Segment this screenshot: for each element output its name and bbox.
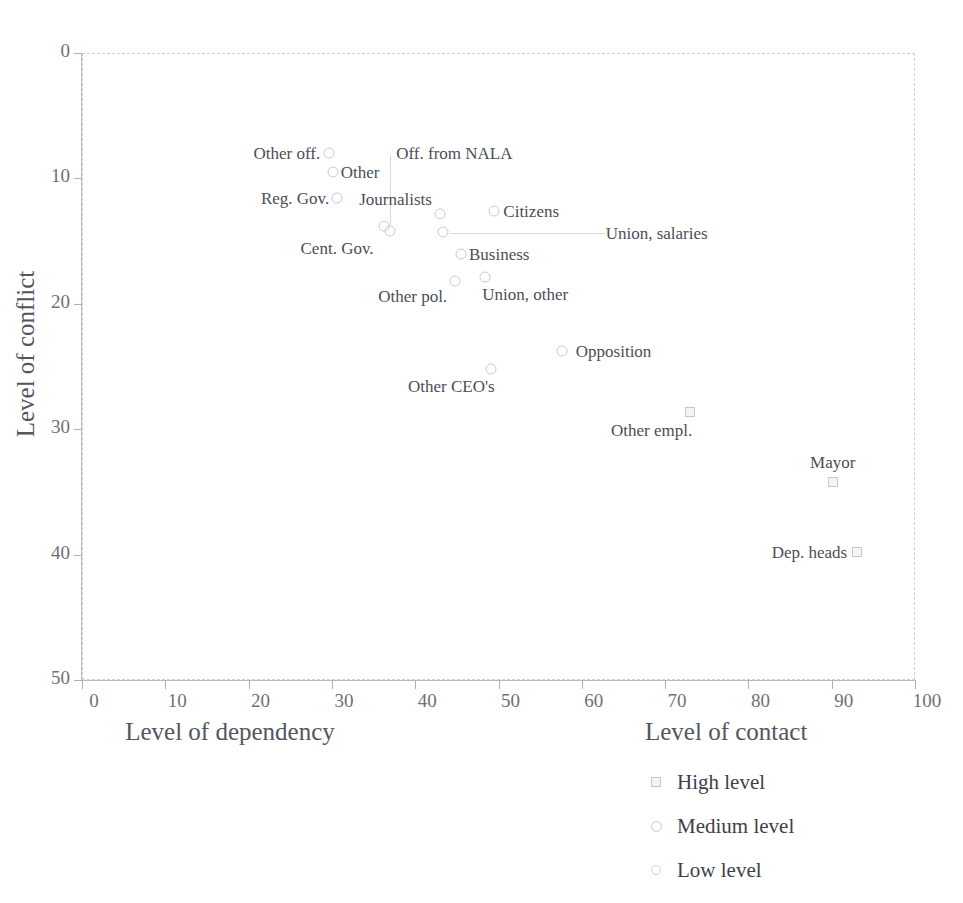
data-point[interactable] <box>450 276 461 287</box>
x-tick <box>665 680 666 689</box>
circle-marker-icon <box>480 272 491 283</box>
data-point-label: Other pol. <box>378 288 447 305</box>
circle-marker-icon <box>327 167 338 178</box>
y-tick <box>74 680 82 681</box>
data-point-label: Union, salaries <box>606 225 708 242</box>
x-tick-label: 30 <box>334 690 353 712</box>
scatter-chart: 50403020100 0102030405060708090100 Level… <box>0 0 963 903</box>
data-point-label: Cent. Gov. <box>301 240 374 257</box>
data-point-label: Union, other <box>482 286 568 303</box>
y-tick <box>74 429 82 430</box>
data-point[interactable] <box>480 272 491 283</box>
data-point[interactable] <box>435 208 446 219</box>
data-point-label: Other off. <box>254 145 321 162</box>
data-point[interactable] <box>456 248 467 259</box>
data-point[interactable] <box>489 206 500 217</box>
circle-marker-icon <box>437 227 448 238</box>
circle-marker-icon <box>456 248 467 259</box>
legend-item-label: High level <box>677 770 765 795</box>
data-point-label: Business <box>469 246 529 263</box>
x-tick <box>165 680 166 689</box>
data-point[interactable] <box>323 148 334 159</box>
x-tick <box>748 680 749 689</box>
data-point[interactable] <box>685 407 695 417</box>
x-tick-label: 20 <box>251 690 270 712</box>
data-point[interactable] <box>331 193 342 204</box>
y-tick <box>74 53 82 54</box>
marker-glyph <box>651 865 661 875</box>
data-point-label: Citizens <box>503 203 559 220</box>
circle-marker-icon <box>645 821 667 832</box>
circle-marker-icon <box>331 193 342 204</box>
square-marker-icon <box>828 477 838 487</box>
data-point-label: Opposition <box>576 343 652 360</box>
x-tick <box>499 680 500 689</box>
data-point[interactable] <box>437 227 448 238</box>
legend-item[interactable]: Low level <box>645 848 945 892</box>
x-tick <box>582 680 583 689</box>
x-tick-label: 40 <box>418 690 437 712</box>
x-tick <box>832 680 833 689</box>
data-point[interactable] <box>385 226 396 237</box>
marker-glyph <box>651 777 661 787</box>
data-point-label: Other <box>341 164 380 181</box>
legend-item-label: Medium level <box>677 814 794 839</box>
circle-marker-icon <box>645 865 667 875</box>
circle-marker-icon <box>435 208 446 219</box>
legend-title: Level of contact <box>645 718 945 746</box>
circle-marker-icon <box>323 148 334 159</box>
x-tick <box>415 680 416 689</box>
x-tick <box>82 680 83 689</box>
legend-items: High levelMedium levelLow level <box>645 760 945 892</box>
data-point-label: Reg. Gov. <box>261 190 329 207</box>
y-tick-label: 10 <box>18 165 70 187</box>
square-marker-icon <box>685 407 695 417</box>
marker-glyph <box>651 821 662 832</box>
data-point-label: Other CEO's <box>408 378 495 395</box>
y-tick-label: 50 <box>18 667 70 689</box>
data-point[interactable] <box>327 167 338 178</box>
x-tick-label: 0 <box>89 690 99 712</box>
x-tick-label: 10 <box>168 690 187 712</box>
data-point-label: Journalists <box>359 191 432 208</box>
data-point-label: Dep. heads <box>772 544 848 561</box>
x-axis-title: Level of dependency <box>20 718 440 746</box>
circle-marker-icon <box>489 206 500 217</box>
circle-marker-icon <box>486 364 497 375</box>
data-point[interactable] <box>852 547 862 557</box>
y-axis-line <box>81 53 82 680</box>
circle-marker-icon <box>556 346 567 357</box>
x-tick <box>332 680 333 689</box>
y-tick-label: 0 <box>18 40 70 62</box>
legend-item[interactable]: Medium level <box>645 804 945 848</box>
x-tick-label: 60 <box>584 690 603 712</box>
square-marker-icon <box>852 547 862 557</box>
union-leader <box>450 233 605 234</box>
legend-item[interactable]: High level <box>645 760 945 804</box>
x-tick <box>249 680 250 689</box>
y-tick-label: 40 <box>18 542 70 564</box>
y-tick <box>74 555 82 556</box>
x-tick-label: 70 <box>668 690 687 712</box>
legend: Level of contact High levelMedium levelL… <box>645 760 945 892</box>
x-tick-label: 100 <box>913 690 942 712</box>
circle-marker-icon <box>450 276 461 287</box>
x-tick-label: 80 <box>751 690 770 712</box>
x-tick-label: 50 <box>501 690 520 712</box>
square-marker-icon <box>645 777 667 787</box>
y-tick <box>74 304 82 305</box>
data-point-label: Off. from NALA <box>396 145 512 162</box>
legend-item-label: Low level <box>677 858 762 883</box>
data-point[interactable] <box>556 346 567 357</box>
x-tick-label: 90 <box>834 690 853 712</box>
data-point[interactable] <box>486 364 497 375</box>
data-point-label: Mayor <box>810 454 855 471</box>
data-point[interactable] <box>828 477 838 487</box>
y-tick <box>74 178 82 179</box>
circle-marker-icon <box>385 226 396 237</box>
y-axis-title: Level of conflict <box>12 224 40 484</box>
data-point-label: Other empl. <box>611 422 692 439</box>
x-tick <box>915 680 916 689</box>
